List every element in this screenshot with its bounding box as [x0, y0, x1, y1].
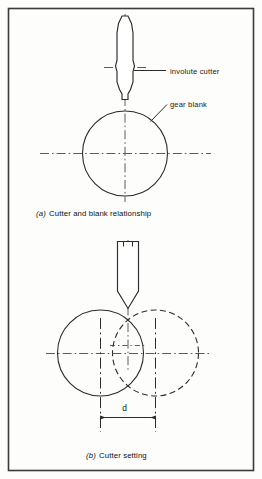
offset-dimension-label: d: [122, 403, 127, 413]
figure-container: involute cutter gear blank (a)Cutter and…: [0, 0, 262, 479]
panel-a-caption: (a)Cutter and blank relationship: [36, 209, 152, 218]
panel-a: involute cutter gear blank (a)Cutter and…: [36, 14, 220, 218]
panel-a-caption-text: Cutter and blank relationship: [49, 209, 152, 218]
panel-b-cutter-body: [118, 242, 139, 309]
gear-blank-leader-line: [151, 105, 168, 122]
engineering-figure: involute cutter gear blank (a)Cutter and…: [0, 0, 262, 479]
gear-blank-label: gear blank: [170, 100, 207, 109]
involute-cutter-label: involute cutter: [170, 67, 220, 76]
panel-b: d (b)Cutter setting: [46, 240, 210, 460]
panel-b-caption: (b)Cutter setting: [86, 451, 147, 460]
panel-a-caption-tag: (a): [36, 209, 46, 218]
panel-b-caption-text: Cutter setting: [99, 451, 147, 460]
involute-cutter-body: [116, 16, 135, 100]
panel-b-caption-tag: (b): [86, 451, 96, 460]
